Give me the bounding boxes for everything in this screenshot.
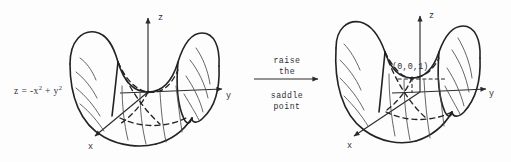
equation-text: z = -x: [14, 86, 39, 96]
saddle-diagram-svg: [0, 0, 511, 162]
equation-label: z = -x2 + y2: [14, 84, 62, 98]
left-y-axis-label: y: [226, 91, 231, 101]
left-hidden-lines: [118, 62, 186, 126]
right-y-axis-label: y: [489, 89, 494, 99]
right-y-axis-stub: [392, 92, 420, 93]
equation-mid: + y: [42, 86, 58, 96]
right-x-axis-label: x: [347, 141, 352, 151]
left-x-axis-label: x: [88, 142, 93, 152]
transform-caption-top: raisethe: [256, 55, 318, 77]
transform-line-2: the: [279, 67, 295, 76]
transform-line-4: point: [273, 102, 300, 111]
transform-line-3: saddle: [271, 91, 303, 100]
saddle-point-label: (0,0,1): [392, 62, 429, 73]
left-origin-marker: [147, 91, 150, 94]
transform-caption-bottom: saddlepoint: [256, 90, 318, 112]
left-z-axis-label: z: [158, 13, 163, 23]
transform-line-1: raise: [273, 56, 300, 65]
equation-exponent-2: 2: [59, 84, 63, 91]
saddle-point-marker: [411, 77, 414, 80]
right-z-axis-label: z: [429, 11, 434, 21]
diagram-canvas: z = -x2 + y2 raisethe saddlepoint (0,0,1…: [0, 0, 511, 162]
